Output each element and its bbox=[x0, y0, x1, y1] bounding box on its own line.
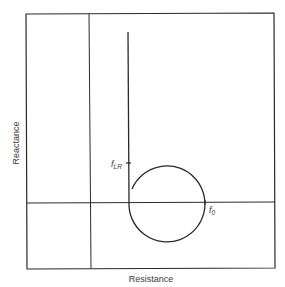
reactance-axis-label: Reactance bbox=[11, 121, 21, 164]
f0-label: f0 bbox=[209, 205, 216, 216]
resistance-axis-line bbox=[27, 202, 275, 203]
impedance-circle-locus bbox=[129, 166, 205, 242]
plot-frame bbox=[26, 13, 275, 269]
f-lr-label: fLR bbox=[111, 159, 122, 170]
impedance-trace-vertical bbox=[128, 32, 129, 202]
reactance-axis-line bbox=[89, 14, 91, 268]
impedance-diagram: fLR f0 Resistance Reactance bbox=[0, 0, 285, 287]
resistance-axis-label: Resistance bbox=[129, 274, 174, 284]
